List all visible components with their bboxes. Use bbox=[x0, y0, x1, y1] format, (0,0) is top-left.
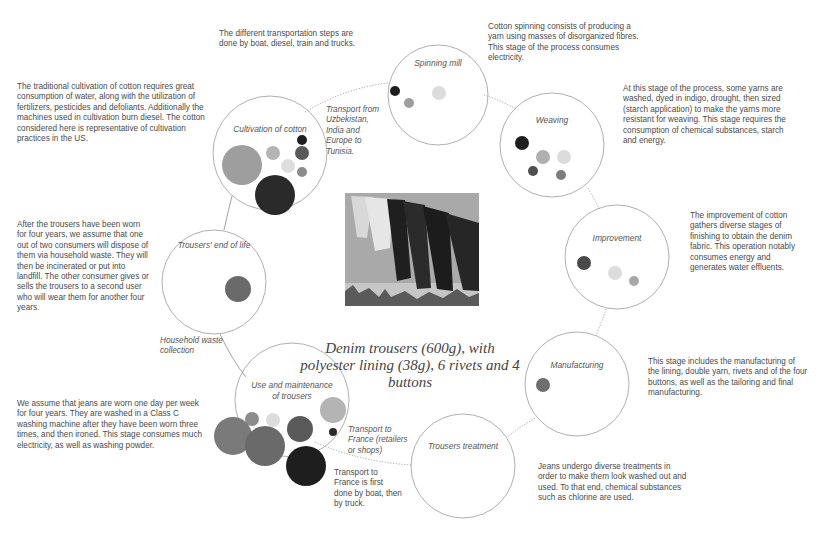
household-waste-label: Household waste collection bbox=[160, 336, 230, 357]
stage-title-improvement: Improvement bbox=[567, 233, 667, 243]
impact-dots-use bbox=[214, 397, 346, 486]
stage-circle-treatment[interactable] bbox=[411, 414, 515, 518]
impact-dots-cultivation bbox=[222, 135, 309, 215]
impact-dots-spinning bbox=[390, 86, 446, 108]
description-manufacturing: This stage includes the manufacturing of… bbox=[648, 357, 808, 399]
transport-from-uzbekistan-label: Transport from Uzbekistan, India and Eur… bbox=[326, 105, 384, 157]
description-improvement: The improvement of cotton gathers divers… bbox=[690, 211, 806, 273]
description-endoflife: After the trousers have been worn for fo… bbox=[17, 220, 152, 314]
connector-spinning-weaving bbox=[484, 95, 518, 110]
description-weaving: At this stage of the process, some yarns… bbox=[623, 84, 793, 146]
impact-dots-weaving bbox=[515, 136, 571, 180]
stage-title-cultivation: Cultivation of cotton bbox=[220, 124, 320, 134]
center-photo bbox=[345, 193, 479, 306]
impact-dots-manufacturing bbox=[536, 378, 550, 392]
clothesline-jeans-icon bbox=[345, 193, 479, 306]
description-use: We assume that jeans are worn one day pe… bbox=[17, 399, 207, 451]
connector-improvement-manufacturing bbox=[596, 309, 606, 335]
stage-title-treatment: Trousers treatment bbox=[413, 441, 513, 451]
connector-cultivation-endoflife bbox=[224, 196, 232, 230]
description-treatment: Jeans undergo diverse treatments in orde… bbox=[538, 462, 688, 504]
connector-manufacturing-treatment bbox=[507, 418, 535, 437]
stage-title-manufacturing: Manufacturing bbox=[527, 360, 627, 370]
transport-to-france-label: Transport to France (retailers or shops) bbox=[348, 425, 408, 456]
impact-dots-improvement bbox=[577, 256, 639, 286]
description-cultivation: The traditional cultivation of cotton re… bbox=[17, 82, 207, 144]
transport-to-france-note: Transport to France is first done by boa… bbox=[334, 468, 402, 510]
connector-weaving-improvement bbox=[588, 188, 600, 210]
description-spinning: Cotton spinning consists of producing a … bbox=[488, 22, 648, 64]
stage-title-spinning: Spinning mill bbox=[388, 58, 488, 68]
impact-dots-endoflife bbox=[225, 276, 251, 302]
stage-title-use: Use and maintenance of trousers bbox=[247, 380, 337, 401]
stage-title-endoflife: Trousers' end of life bbox=[164, 240, 264, 250]
stage-title-weaving: Weaving bbox=[502, 115, 602, 125]
transport-general-note: The different transportation steps are d… bbox=[219, 29, 369, 50]
